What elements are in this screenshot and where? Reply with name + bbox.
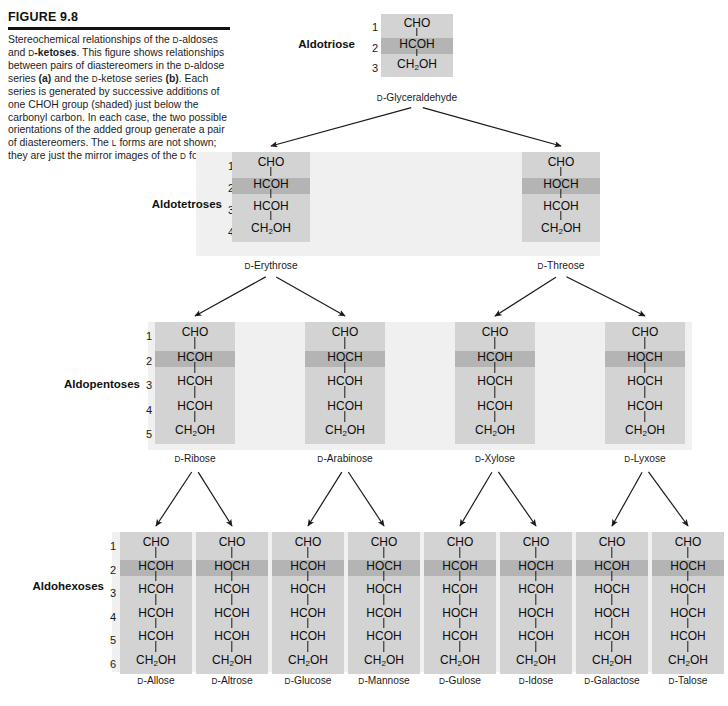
bond-line [270, 189, 271, 198]
chem-group: CH2OH [196, 653, 268, 668]
derivation-arrow [198, 472, 232, 526]
sugar-name: -Threose [544, 260, 585, 271]
bond-line [644, 362, 645, 374]
bond-line [611, 571, 612, 582]
chem-group: CH2OH [381, 57, 453, 72]
molecule-altrose: CHOHOCHHCOHHCOHHCOHCH2OH [196, 532, 268, 674]
bond-line [494, 337, 495, 349]
carbon-number: 1 [104, 540, 116, 552]
figure-rule-top [8, 27, 230, 30]
molecule-glyceraldehyde: CHOHCOHCH2OH [381, 14, 453, 77]
derivation-arrow [348, 472, 384, 526]
carbon-number: 6 [104, 658, 116, 670]
chem-group: CH2OH [522, 221, 600, 236]
molecule-label: D-Talose [630, 675, 728, 686]
bond-line [687, 571, 688, 582]
bond-line [459, 547, 460, 558]
molecule-threose: CHOHOCHHCOHCH2OH [522, 152, 600, 242]
molecule-xylose: CHOHCOHHOCHHCOHCH2OH [455, 322, 535, 444]
chem-group: CH2OH [155, 423, 235, 438]
molecule-label: D-Lyxose [583, 453, 707, 464]
sugar-name: -Glyceraldehyde [383, 92, 457, 103]
row-label-aldopentoses: Aldopentoses [0, 378, 140, 390]
bond-line [231, 641, 232, 652]
bond-line [535, 594, 536, 605]
bond-line [560, 211, 561, 220]
carbon-number: 4 [140, 404, 152, 416]
bond-line [231, 571, 232, 582]
sugar-name: -Arabinose [323, 453, 372, 464]
bond-line [611, 594, 612, 605]
molecule-label: D-Glyceraldehyde [359, 92, 475, 103]
sugar-name: -Allose [143, 675, 174, 686]
molecule-galactose: CHOHCOHHOCHHOCHHCOHCH2OH [576, 532, 648, 674]
molecule-allose: CHOHCOHHCOHHCOHHCOHCH2OH [120, 532, 192, 674]
sugar-name: -Talose [675, 675, 708, 686]
bond-line [194, 362, 195, 374]
chem-group: CH2OH [272, 653, 344, 668]
bond-line [644, 386, 645, 398]
bond-line [535, 571, 536, 582]
sugar-name: -Erythrose [251, 260, 298, 271]
derivation-arrow [612, 472, 642, 526]
derivation-arrow [495, 277, 556, 316]
figure-caption-text: Stereochemical relationships of the D-al… [8, 34, 230, 163]
molecule-idose: CHOHOCHHCOHHOCHHCOHCH2OH [500, 532, 572, 674]
bond-line [560, 167, 561, 176]
bond-line [494, 386, 495, 398]
carbon-number: 4 [104, 611, 116, 623]
bond-line [194, 337, 195, 349]
row-label-aldotetroses: Aldotetroses [0, 198, 222, 210]
bond-line [344, 362, 345, 374]
bond-line [270, 167, 271, 176]
derivation-arrow [649, 472, 689, 526]
bond-line [307, 594, 308, 605]
bond-line [687, 618, 688, 629]
derivation-arrow [460, 472, 492, 526]
chem-group: CH2OH [305, 423, 385, 438]
chem-group: CH2OH [576, 653, 648, 668]
figure-number: FIGURE 9.8 [8, 10, 230, 24]
carbon-number: 3 [366, 62, 378, 74]
row-label-aldotriose: Aldotriose [0, 38, 355, 50]
bond-line [383, 641, 384, 652]
bond-line [270, 211, 271, 220]
bond-line [611, 618, 612, 629]
derivation-arrow [308, 472, 342, 526]
figure-caption-block: FIGURE 9.8 Stereochemical relationships … [8, 10, 230, 163]
bond-line [383, 547, 384, 558]
bond-line [231, 618, 232, 629]
carbon-number: 2 [140, 355, 152, 367]
chem-group: CH2OH [500, 653, 572, 668]
bond-line [644, 337, 645, 349]
molecule-arabinose: CHOHOCHHCOHHCOHCH2OH [305, 322, 385, 444]
caption-run: and the [51, 73, 91, 84]
derivation-arrow [271, 108, 411, 146]
sugar-name: -Gulose [445, 675, 481, 686]
derivation-arrow [423, 108, 561, 146]
bond-line [194, 411, 195, 423]
bond-line [383, 618, 384, 629]
bond-line [383, 571, 384, 582]
chem-group: CH2OH [232, 221, 310, 236]
bond-line [344, 386, 345, 398]
molecule-talose: CHOHOCHHOCHHOCHHCOHCH2OH [652, 532, 724, 674]
chem-group: CH2OH [348, 653, 420, 668]
bond-line [344, 337, 345, 349]
sugar-name: -Xylose [481, 453, 515, 464]
molecule-glucose: CHOHCOHHOCHHCOHHCOHCH2OH [272, 532, 344, 674]
sugar-name: -Altrose [218, 675, 253, 686]
chem-group: CH2OH [120, 653, 192, 668]
bond-line [307, 641, 308, 652]
molecule-label: D-Ribose [133, 453, 257, 464]
chem-group: CH2OH [455, 423, 535, 438]
bond-line [644, 411, 645, 423]
bond-line [231, 547, 232, 558]
carbon-number: 5 [104, 634, 116, 646]
bond-line [459, 594, 460, 605]
caption-run: (a) [39, 73, 52, 84]
bond-line [383, 594, 384, 605]
carbon-number: 5 [140, 428, 152, 440]
bond-line [155, 547, 156, 558]
